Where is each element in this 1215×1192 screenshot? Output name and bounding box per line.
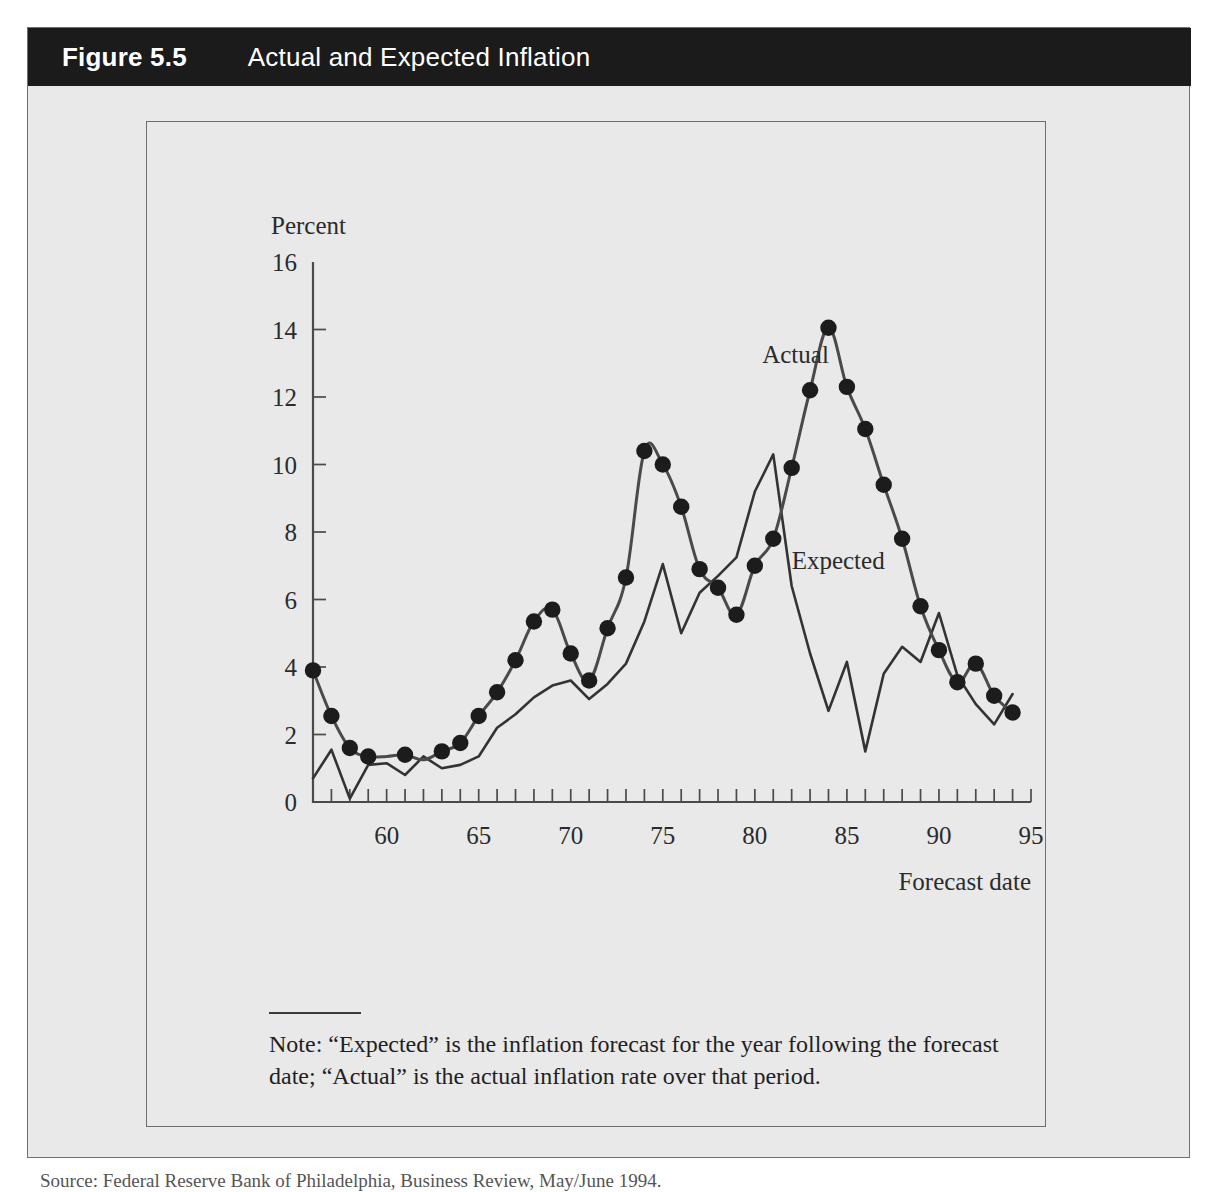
data-point-marker: [968, 655, 984, 671]
data-point-marker: [839, 379, 855, 395]
figure-panel: Figure 5.5 Actual and Expected Inflation…: [27, 27, 1190, 1158]
y-tick-label: 10: [272, 452, 297, 479]
data-point-marker: [802, 382, 818, 398]
data-point-marker: [765, 531, 781, 547]
expected-series-label: Expected: [792, 547, 886, 574]
figure-header-bar: Figure 5.5 Actual and Expected Inflation: [28, 28, 1191, 86]
data-point-marker: [820, 320, 836, 336]
inflation-line-chart: Percent 0246810121416 6065707580859095 A…: [147, 122, 1045, 1126]
x-tick-label: 95: [1019, 822, 1044, 849]
y-tick-label: 6: [285, 587, 298, 614]
data-point-marker: [507, 652, 523, 668]
data-point-marker: [912, 598, 928, 614]
axis-lines: [313, 262, 1031, 802]
data-point-marker: [636, 443, 652, 459]
data-point-marker: [526, 613, 542, 629]
y-axis-title: Percent: [271, 212, 346, 239]
y-tick-label: 0: [285, 789, 298, 816]
data-point-marker: [691, 561, 707, 577]
y-tick-label: 12: [272, 384, 297, 411]
y-tick-label: 4: [285, 654, 298, 681]
data-point-marker: [581, 672, 597, 688]
source-line: Source: Federal Reserve Bank of Philadel…: [40, 1170, 661, 1192]
expected-series-line: [313, 454, 1013, 798]
data-point-marker: [452, 735, 468, 751]
actual-series-label: Actual: [762, 341, 829, 368]
x-axis-ticks: 6065707580859095: [331, 789, 1043, 849]
figure-number: Figure 5.5: [62, 42, 187, 73]
data-point-marker: [857, 421, 873, 437]
data-point-marker: [618, 569, 634, 585]
note-text: Note: “Expected” is the inflation foreca…: [269, 1028, 1029, 1092]
figure-note: Note: “Expected” is the inflation foreca…: [269, 1012, 1029, 1092]
x-tick-label: 65: [466, 822, 491, 849]
data-point-marker: [305, 662, 321, 678]
x-tick-label: 60: [374, 822, 399, 849]
data-point-marker: [728, 606, 744, 622]
data-point-marker: [544, 601, 560, 617]
data-point-marker: [434, 743, 450, 759]
x-tick-label: 75: [650, 822, 675, 849]
y-tick-label: 8: [285, 519, 298, 546]
data-point-marker: [599, 620, 615, 636]
data-point-marker: [470, 708, 486, 724]
y-tick-label: 14: [272, 317, 298, 344]
y-tick-label: 2: [285, 722, 298, 749]
data-point-marker: [747, 558, 763, 574]
data-point-marker: [563, 645, 579, 661]
note-divider: [269, 1012, 361, 1014]
data-point-marker: [986, 687, 1002, 703]
data-point-marker: [360, 748, 376, 764]
data-point-marker: [894, 531, 910, 547]
x-tick-label: 70: [558, 822, 583, 849]
data-point-marker: [673, 498, 689, 514]
data-point-marker: [949, 674, 965, 690]
data-point-marker: [931, 642, 947, 658]
data-point-marker: [489, 684, 505, 700]
x-axis-title: Forecast date: [898, 868, 1031, 895]
x-tick-label: 80: [742, 822, 767, 849]
y-axis-ticks: 0246810121416: [272, 249, 326, 816]
data-point-marker: [342, 740, 358, 756]
data-point-marker: [876, 477, 892, 493]
actual-series-markers: [305, 320, 1021, 765]
data-point-marker: [323, 708, 339, 724]
data-point-marker: [655, 456, 671, 472]
figure-title: Actual and Expected Inflation: [248, 42, 591, 73]
data-point-marker: [710, 579, 726, 595]
chart-frame: Percent 0246810121416 6065707580859095 A…: [146, 121, 1046, 1127]
x-tick-label: 85: [834, 822, 859, 849]
data-point-marker: [397, 747, 413, 763]
x-tick-label: 90: [926, 822, 951, 849]
y-tick-label: 16: [272, 249, 297, 276]
data-point-marker: [1004, 704, 1020, 720]
data-point-marker: [783, 460, 799, 476]
